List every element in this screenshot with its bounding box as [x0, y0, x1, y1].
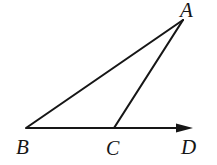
vertex-label-d: D [181, 137, 196, 158]
vertex-label-c: C [106, 138, 119, 158]
vertex-label-b: B [16, 137, 29, 158]
geometry-figure: A B C D [0, 0, 217, 165]
vertex-label-a: A [180, 0, 193, 21]
